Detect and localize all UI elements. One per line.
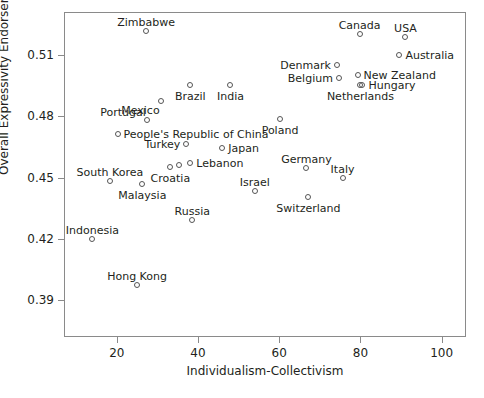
- point-label: South Korea: [77, 167, 144, 178]
- data-point: [115, 131, 121, 137]
- point-label: USA: [394, 23, 417, 34]
- point-label: Brazil: [175, 91, 206, 102]
- x-tick-label: 80: [353, 346, 368, 360]
- point-label: Zimbabwe: [117, 17, 175, 28]
- x-tick-label: 60: [272, 346, 287, 360]
- point-label: Hong Kong: [107, 271, 167, 282]
- y-tick-mark: [58, 178, 64, 179]
- point-label: Denmark: [280, 60, 331, 71]
- data-point: [355, 72, 361, 78]
- x-tick-mark: [117, 337, 118, 343]
- y-tick-mark: [58, 116, 64, 117]
- scatter-plot-figure: Overall Expressivity Endorsement Individ…: [0, 0, 484, 398]
- point-label: Poland: [262, 125, 299, 136]
- y-tick-label: 0.45: [27, 171, 54, 185]
- point-label: Turkey: [144, 139, 180, 150]
- point-label: Canada: [339, 20, 381, 31]
- point-label: India: [217, 91, 244, 102]
- x-tick-label: 40: [190, 346, 205, 360]
- point-label: Russia: [175, 206, 210, 217]
- y-tick-label: 0.48: [27, 109, 54, 123]
- point-label: Israel: [240, 177, 270, 188]
- point-label: Australia: [405, 50, 454, 61]
- y-tick-label: 0.51: [27, 48, 54, 62]
- point-label: Germany: [281, 154, 332, 165]
- data-point: [336, 75, 342, 81]
- point-label: Portugal: [100, 107, 146, 118]
- y-tick-mark: [58, 55, 64, 56]
- point-label: Belgium: [288, 73, 333, 84]
- point-label: Netherlands: [327, 91, 394, 102]
- point-label: Indonesia: [66, 225, 119, 236]
- data-point: [334, 62, 340, 68]
- y-tick-label: 0.42: [27, 232, 54, 246]
- x-tick-mark: [360, 337, 361, 343]
- x-tick-mark: [279, 337, 280, 343]
- point-label: Japan: [228, 143, 259, 154]
- point-label: Lebanon: [196, 158, 243, 169]
- x-tick-label: 20: [109, 346, 124, 360]
- point-label: Switzerland: [276, 203, 340, 214]
- x-tick-label: 100: [430, 346, 453, 360]
- y-tick-label: 0.39: [27, 293, 54, 307]
- point-label: Italy: [331, 164, 355, 175]
- point-label: Malaysia: [118, 190, 166, 201]
- y-axis-title: Overall Expressivity Endorsement: [0, 0, 11, 175]
- y-tick-mark: [58, 300, 64, 301]
- x-axis-title: Individualism-Collectivism: [187, 364, 344, 378]
- x-tick-mark: [198, 337, 199, 343]
- data-point: [176, 162, 182, 168]
- y-tick-mark: [58, 239, 64, 240]
- data-point: [187, 160, 193, 166]
- x-tick-mark: [442, 337, 443, 343]
- point-label: Croatia: [151, 173, 191, 184]
